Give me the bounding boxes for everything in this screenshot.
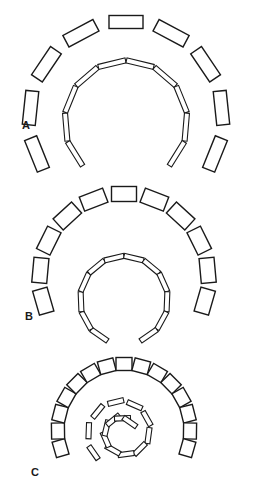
outer-block (36, 226, 61, 255)
inner-slat (157, 272, 170, 292)
outer-block (191, 47, 221, 82)
outer-block (166, 202, 195, 230)
inner-slat (174, 85, 189, 113)
outer-block (203, 136, 228, 172)
outer-block (194, 287, 215, 315)
outer-block (140, 188, 169, 211)
inner-slat (87, 259, 106, 276)
inner-slat (79, 311, 93, 331)
panel-a-inner-arc (63, 58, 190, 167)
inner-slat (126, 58, 154, 69)
outer-block (79, 188, 108, 211)
outer-block (51, 423, 64, 439)
outer-block (116, 358, 132, 371)
spiral-slat (86, 423, 92, 439)
outer-block (153, 20, 189, 47)
spiral-slat (141, 410, 153, 426)
panel-b-outer-arc (32, 187, 217, 316)
panel-b-label: B (25, 310, 33, 322)
outer-block (25, 136, 50, 172)
spiral-slat (107, 398, 124, 407)
inner-slat (75, 65, 99, 87)
inner-slat (78, 272, 91, 292)
inner-slat (142, 259, 161, 276)
inner-slat (90, 327, 109, 343)
spiral-slat (145, 427, 152, 444)
outer-block (199, 257, 216, 283)
inner-slat (98, 58, 126, 69)
inner-slat (78, 292, 84, 312)
inner-slat (63, 85, 78, 113)
block-arrangement-figure (0, 0, 253, 498)
inner-slat (164, 292, 170, 312)
outer-block (32, 257, 49, 283)
outer-block (213, 90, 229, 125)
panel-a-label: A (22, 119, 30, 131)
outer-block (183, 423, 196, 439)
panel-c-outer-arc (51, 358, 196, 458)
inner-slat (66, 141, 85, 167)
outer-block (33, 287, 54, 315)
spiral-slat (133, 442, 148, 457)
outer-block (187, 226, 212, 255)
panel-a-outer-arc (22, 16, 229, 173)
inner-slat (139, 327, 158, 343)
inner-slat (63, 113, 70, 141)
outer-block (32, 47, 62, 82)
outer-block (63, 20, 99, 47)
panel-a (22, 16, 229, 173)
inner-slat (104, 253, 125, 262)
spiral-slat (126, 400, 143, 411)
panel-b-inner-arc (78, 253, 170, 343)
inner-slat (124, 253, 145, 262)
outer-block (97, 358, 116, 375)
panel-c-inner-spiral (86, 398, 153, 461)
inner-slat (182, 113, 189, 141)
outer-block (53, 202, 82, 230)
spiral-slat (87, 445, 100, 461)
outer-block (112, 187, 137, 202)
panel-c-label: C (31, 466, 39, 478)
outer-block (52, 439, 69, 458)
inner-slat (167, 141, 186, 167)
panel-c (51, 358, 196, 461)
spiral-slat (91, 404, 105, 420)
inner-slat (153, 65, 177, 87)
panel-b (32, 187, 217, 344)
outer-block (180, 404, 197, 423)
outer-block (179, 439, 196, 458)
outer-block (109, 16, 143, 29)
inner-slat (155, 311, 169, 331)
